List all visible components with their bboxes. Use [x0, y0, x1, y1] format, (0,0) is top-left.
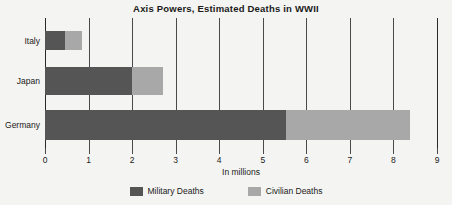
tick-label: 0	[33, 155, 57, 165]
bar-segment[interactable]	[65, 31, 82, 50]
tick-label: 2	[120, 155, 144, 165]
x-axis-title: In millions	[45, 167, 437, 177]
chart-container: Axis Powers, Estimated Deaths in WWII 01…	[0, 0, 452, 205]
tick-mark	[306, 148, 307, 154]
tick-mark	[89, 148, 90, 154]
bar-row[interactable]	[45, 67, 437, 95]
tick-label: 8	[381, 155, 405, 165]
tick-mark	[176, 148, 177, 154]
tick-mark	[393, 148, 394, 154]
tick-mark	[263, 148, 264, 154]
tick-label: 7	[338, 155, 362, 165]
plot-area	[45, 18, 437, 148]
category-label: Italy	[0, 36, 40, 46]
legend-item[interactable]: Civilian Deaths	[248, 186, 323, 196]
chart-legend: Military DeathsCivilian Deaths	[0, 186, 452, 196]
tick-label: 4	[207, 155, 231, 165]
tick-mark	[350, 148, 351, 154]
category-label: Germany	[0, 120, 40, 130]
bar-segment[interactable]	[286, 110, 410, 140]
tick-label: 6	[294, 155, 318, 165]
category-label: Japan	[0, 76, 40, 86]
bar-segment[interactable]	[45, 31, 65, 50]
tick-label: 3	[164, 155, 188, 165]
legend-swatch	[248, 187, 261, 196]
legend-swatch	[130, 187, 143, 196]
tick-mark	[45, 148, 46, 154]
tick-mark	[132, 148, 133, 154]
gridline	[437, 18, 438, 148]
tick-label: 5	[251, 155, 275, 165]
bar-segment[interactable]	[132, 67, 162, 95]
bar-row[interactable]	[45, 31, 437, 50]
tick-label: 1	[77, 155, 101, 165]
tick-mark	[437, 148, 438, 154]
legend-label: Civilian Deaths	[266, 186, 323, 196]
legend-item[interactable]: Military Deaths	[130, 186, 204, 196]
bar-row[interactable]	[45, 110, 437, 140]
bar-segment[interactable]	[45, 67, 132, 95]
legend-label: Military Deaths	[148, 186, 204, 196]
chart-title: Axis Powers, Estimated Deaths in WWII	[0, 3, 452, 14]
bar-segment[interactable]	[45, 110, 286, 140]
tick-label: 9	[425, 155, 449, 165]
tick-mark	[219, 148, 220, 154]
